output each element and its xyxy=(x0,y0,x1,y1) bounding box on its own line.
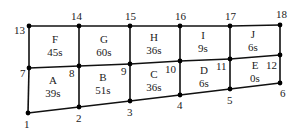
node-5 xyxy=(228,87,233,92)
node-10 xyxy=(178,59,183,64)
node-12 xyxy=(278,53,283,58)
node-label-13: 13 xyxy=(14,24,26,36)
node-label-14: 14 xyxy=(71,10,83,22)
node-4 xyxy=(178,93,183,98)
node-label-1: 1 xyxy=(24,118,30,130)
region-name-E: E xyxy=(252,59,259,71)
region-name-G: G xyxy=(100,33,108,45)
node-label-4: 4 xyxy=(177,99,183,111)
region-name-F: F xyxy=(52,33,58,45)
region-value-B: 51s xyxy=(95,84,110,96)
node-3 xyxy=(128,99,133,104)
node-label-2: 2 xyxy=(76,112,82,124)
edge-1-7 xyxy=(28,68,29,113)
node-label-12: 12 xyxy=(266,59,277,71)
edge-2-3 xyxy=(79,101,130,107)
region-name-A: A xyxy=(49,74,57,86)
node-15 xyxy=(128,24,133,29)
node-label-16: 16 xyxy=(175,10,187,22)
region-value-I: 9s xyxy=(198,42,208,54)
edge-3-4 xyxy=(130,95,180,101)
region-name-I: I xyxy=(201,29,205,41)
node-18 xyxy=(278,23,283,28)
region-value-F: 45s xyxy=(47,46,62,58)
node-2 xyxy=(77,105,82,110)
node-label-9: 9 xyxy=(121,65,127,77)
edge-4-5 xyxy=(180,89,230,95)
region-value-C: 36s xyxy=(146,81,161,93)
node-label-5: 5 xyxy=(227,94,233,106)
node-label-18: 18 xyxy=(276,8,288,20)
region-name-D: D xyxy=(200,64,208,76)
edge-17-18 xyxy=(230,25,280,26)
region-value-D: 6s xyxy=(199,77,209,89)
node-16 xyxy=(178,24,183,29)
node-label-17: 17 xyxy=(225,10,237,22)
node-label-3: 3 xyxy=(127,106,133,118)
region-name-H: H xyxy=(150,31,158,43)
region-value-A: 39s xyxy=(45,87,60,99)
node-label-10: 10 xyxy=(165,63,177,75)
edge-1-2 xyxy=(28,107,79,113)
region-value-J: 6s xyxy=(248,41,258,53)
node-11 xyxy=(228,57,233,62)
node-7 xyxy=(27,66,32,71)
node-9 xyxy=(128,62,133,67)
region-value-E: 0s xyxy=(250,72,260,84)
node-label-6: 6 xyxy=(280,87,286,99)
node-17 xyxy=(228,24,233,29)
region-value-G: 60s xyxy=(96,46,111,58)
node-6 xyxy=(278,81,283,86)
node-label-11: 11 xyxy=(216,60,227,72)
region-name-C: C xyxy=(150,68,157,80)
node-label-7: 7 xyxy=(20,67,26,79)
node-13 xyxy=(27,24,32,29)
region-name-B: B xyxy=(99,71,106,83)
node-14 xyxy=(77,24,82,29)
node-label-15: 15 xyxy=(125,10,137,22)
region-name-J: J xyxy=(251,28,256,40)
node-8 xyxy=(77,64,82,69)
node-1 xyxy=(26,111,31,116)
mesh-diagram: 123456789101112131415161718 A39sB51sC36s… xyxy=(0,0,302,134)
node-label-8: 8 xyxy=(69,67,75,79)
region-value-H: 36s xyxy=(146,44,161,56)
